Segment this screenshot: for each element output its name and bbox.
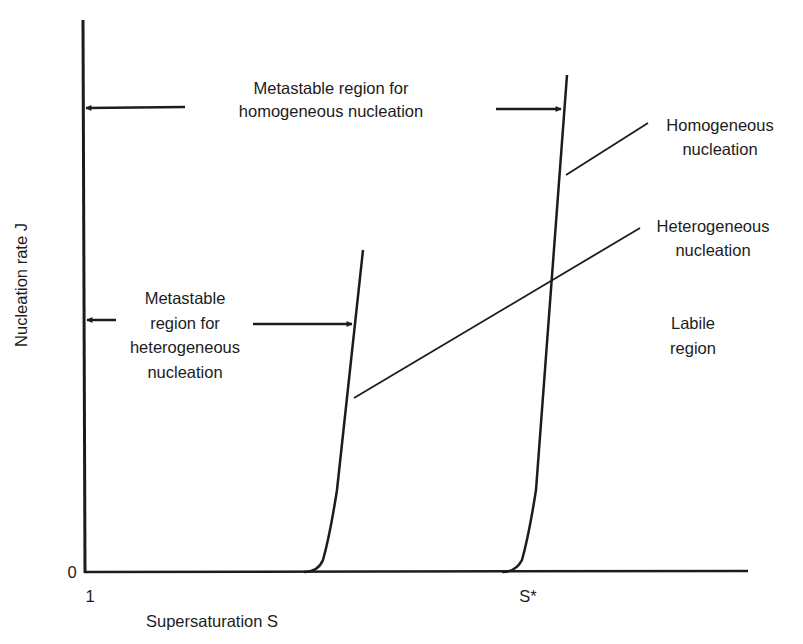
hetero-metastable-label-line3: heterogeneous — [130, 335, 240, 359]
x-axis — [84, 571, 748, 572]
heterogeneous-leader-line — [354, 228, 640, 398]
y-axis — [83, 20, 85, 573]
labile-label-line1: Labile — [671, 311, 715, 335]
heterogeneous-label-line1: Heterogeneous — [657, 214, 770, 238]
heterogeneous-label-line2: nucleation — [675, 238, 750, 262]
homogeneous-curve — [502, 75, 567, 572]
hetero-metastable-label-line1: Metastable — [145, 286, 226, 310]
hetero-metastable-label-line2: region for — [150, 311, 220, 335]
y-axis-label: Nucleation rate J — [12, 223, 31, 347]
x-axis-label: Supersaturation S — [146, 609, 278, 633]
homogeneous-label-line1: Homogeneous — [666, 113, 773, 137]
y-tick-zero: 0 — [67, 560, 76, 584]
x-tick-sstar: S* — [519, 584, 536, 608]
labile-label-line2: region — [670, 336, 716, 360]
x-tick-one: 1 — [85, 584, 94, 608]
homo-metastable-left-arrow — [86, 107, 185, 108]
homogeneous-leader-line — [566, 123, 648, 175]
homo-metastable-label-line1: Metastable region for — [253, 76, 408, 100]
heterogeneous-curve — [304, 250, 363, 572]
homogeneous-label-line2: nucleation — [682, 137, 757, 161]
hetero-metastable-label-line4: nucleation — [147, 360, 222, 384]
homo-metastable-label-line2: homogeneous nucleation — [239, 99, 423, 123]
